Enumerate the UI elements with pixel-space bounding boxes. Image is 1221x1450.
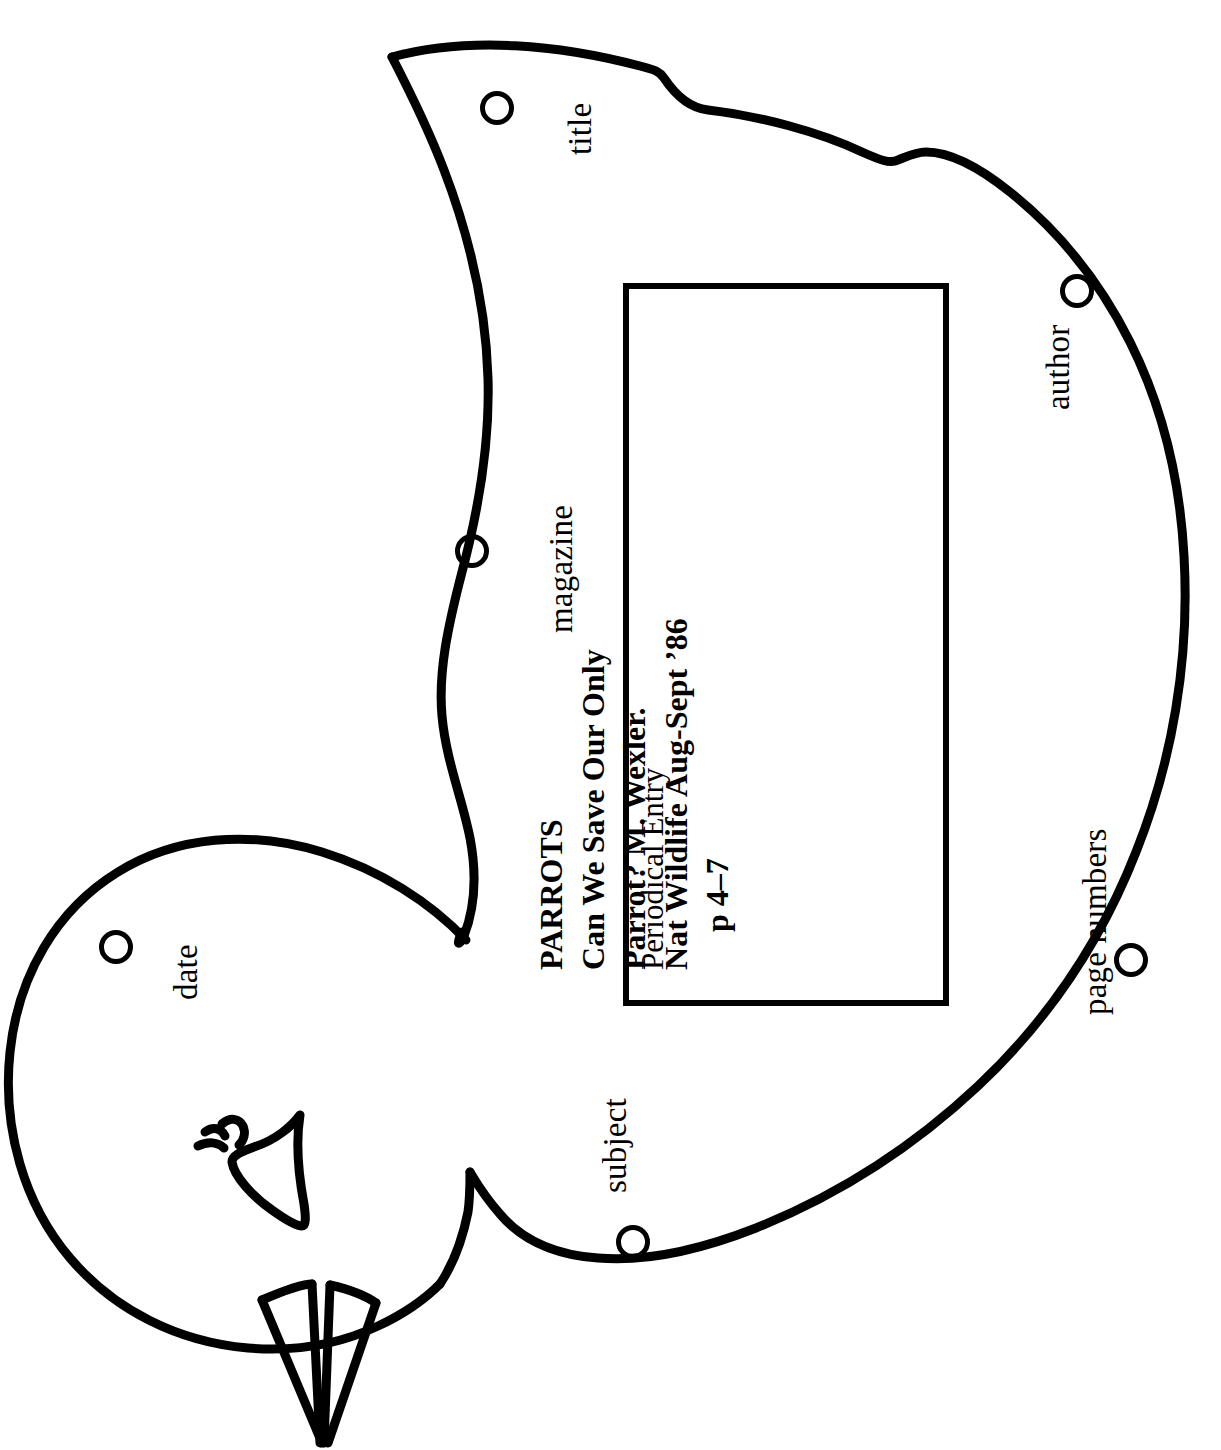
hole-label-author: author bbox=[1040, 324, 1077, 410]
bird-tail-top-edge bbox=[262, 1284, 312, 1300]
hole-punch-author[interactable] bbox=[1060, 274, 1094, 308]
bird-wing-curve bbox=[392, 57, 558, 1172]
bird-tail-feather-mid-b bbox=[324, 1285, 330, 1443]
hole-punch-magazine[interactable] bbox=[455, 534, 489, 568]
hole-punch-subject[interactable] bbox=[616, 1225, 650, 1259]
hole-label-page-numbers: page numbers bbox=[1077, 828, 1114, 1015]
bird-tail-feather-right bbox=[328, 1303, 376, 1443]
entry-line-subject: PARROTS bbox=[531, 618, 573, 970]
entry-line-source: Nat Wildlife Aug-Sept ’86 bbox=[656, 618, 698, 970]
bird-eye-brow bbox=[205, 1129, 225, 1136]
worksheet-page: title author magazine date page numbers … bbox=[0, 0, 1221, 1450]
entry-line-pages: p 4–7 bbox=[697, 618, 739, 970]
hole-punch-page-numbers[interactable] bbox=[1114, 943, 1148, 977]
hole-label-subject: subject bbox=[597, 1098, 634, 1193]
bird-wing-inner-contour bbox=[392, 57, 488, 936]
bird-neck bbox=[440, 1172, 470, 1284]
entry-card-lines: PARROTS Can We Save Our Only Parrot? M. … bbox=[531, 618, 739, 970]
hole-label-title: title bbox=[562, 103, 599, 155]
bird-head bbox=[8, 839, 466, 1349]
periodical-entry-card: Periodical Entry PARROTS Can We Save Our… bbox=[623, 283, 949, 1006]
entry-line-title-2: Parrot? M. Wexler. bbox=[614, 618, 656, 970]
hole-label-magazine: magazine bbox=[543, 505, 580, 633]
hole-punch-title[interactable] bbox=[480, 91, 514, 125]
bird-tail-top-edge-2 bbox=[330, 1285, 376, 1303]
bird-eye-line bbox=[198, 1143, 224, 1148]
entry-line-title-1: Can We Save Our Only bbox=[573, 618, 615, 970]
hole-punch-date[interactable] bbox=[99, 930, 133, 964]
hole-label-date: date bbox=[168, 944, 205, 1000]
